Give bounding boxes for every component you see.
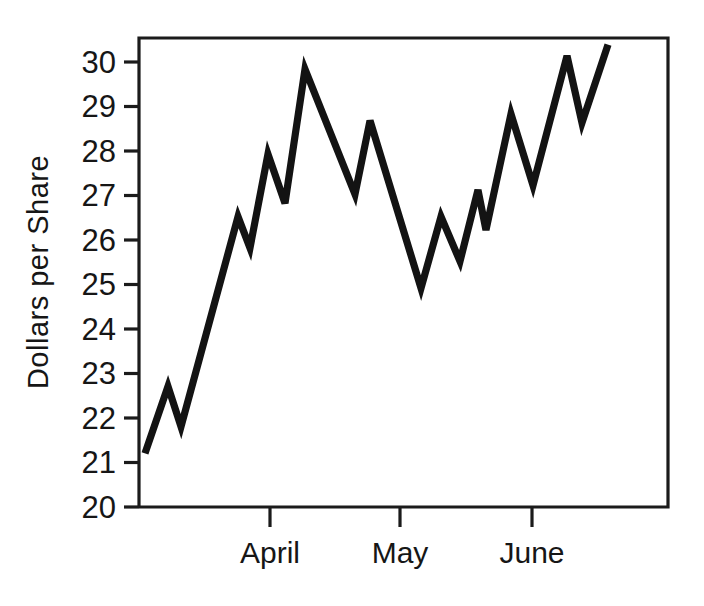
x-tick-label-april: April <box>240 536 300 569</box>
y-tick-label-22: 22 <box>82 401 116 436</box>
line-chart: 30 29 28 27 26 25 24 23 22 21 20 Dollars… <box>0 0 704 606</box>
y-tick-label-25: 25 <box>82 267 116 302</box>
x-axis-tick-marks <box>270 507 532 527</box>
x-tick-label-june: June <box>499 536 564 569</box>
y-tick-label-29: 29 <box>82 89 116 124</box>
x-axis-tick-labels: April May June <box>240 536 565 569</box>
y-axis-title: Dollars per Share <box>22 155 54 389</box>
y-axis-tick-labels: 30 29 28 27 26 25 24 23 22 21 20 <box>82 45 116 525</box>
x-tick-label-may: May <box>372 536 429 569</box>
chart-canvas: 30 29 28 27 26 25 24 23 22 21 20 Dollars… <box>0 0 704 606</box>
data-series-group <box>145 45 608 454</box>
y-axis-tick-marks <box>124 62 139 507</box>
y-tick-label-27: 27 <box>82 178 116 213</box>
y-tick-label-30: 30 <box>82 45 116 80</box>
y-tick-label-26: 26 <box>82 223 116 258</box>
y-tick-label-23: 23 <box>82 356 116 391</box>
y-tick-label-21: 21 <box>82 445 116 480</box>
data-line-share-price <box>145 45 608 454</box>
y-tick-label-28: 28 <box>82 134 116 169</box>
y-axis-title-text: Dollars per Share <box>22 155 54 389</box>
y-tick-label-24: 24 <box>82 312 116 347</box>
y-tick-label-20: 20 <box>82 490 116 525</box>
